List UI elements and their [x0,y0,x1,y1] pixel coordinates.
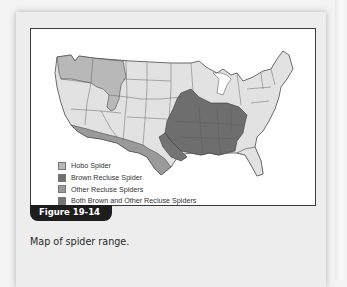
adjacent-card-edge [335,0,347,280]
legend-item-hobo-spider: Hobo Spider [58,160,196,172]
figure-caption: Map of spider range. [30,236,129,247]
figure-label-tab: Figure 19-14 [30,205,112,221]
legend-label: Brown Recluse Spider [71,172,142,184]
legend-item-brown-recluse: Brown Recluse Spider [58,172,196,184]
brown-recluse-swatch-icon [58,174,66,182]
hobo-swatch-icon [58,162,66,170]
figure-card: Hobo Spider Brown Recluse Spider Other R… [16,12,326,287]
florida [237,147,263,176]
legend-label: Hobo Spider [71,160,111,172]
spider-range-map: Hobo Spider Brown Recluse Spider Other R… [30,28,316,206]
legend-label: Other Recluse Spiders [71,184,143,196]
legend-item-other-recluse: Other Recluse Spiders [58,184,196,196]
other-recluse-swatch-icon [58,185,66,193]
map-legend: Hobo Spider Brown Recluse Spider Other R… [58,160,196,206]
